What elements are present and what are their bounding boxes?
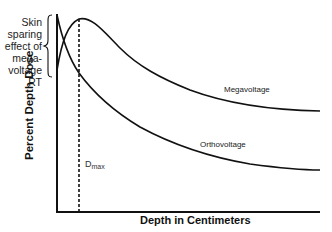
skin-label-line: effect of — [0, 40, 42, 52]
skin-label-line: mega- — [0, 52, 42, 64]
dmax-label: Dmax — [85, 159, 105, 170]
megavoltage-curve — [57, 19, 320, 111]
orthovoltage-curve — [57, 15, 320, 170]
skin-label-line: sparing — [0, 28, 42, 40]
orthovoltage-label: Orthovoltage — [200, 140, 246, 149]
skin-sparing-label: Skin sparing effect of mega- voltage RT — [0, 16, 42, 88]
chart-canvas — [0, 0, 332, 232]
skin-label-line: Skin — [0, 16, 42, 28]
skin-label-line: RT — [0, 76, 42, 88]
skin-sparing-brace — [44, 15, 52, 77]
megavoltage-label: Megavoltage — [224, 85, 270, 94]
x-axis-label: Depth in Centimeters — [140, 214, 251, 226]
y-axis-label: Percent Depth Dose — [23, 51, 35, 160]
skin-label-line: voltage — [0, 64, 42, 76]
dmax-subscript: max — [92, 163, 105, 170]
